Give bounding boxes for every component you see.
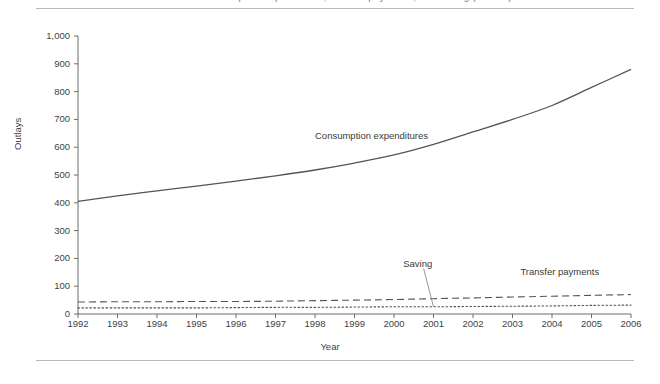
- y-tick-label: 300: [26, 226, 70, 236]
- x-tick-label: 2004: [532, 318, 572, 329]
- x-tick-label: 2000: [374, 318, 414, 329]
- x-tick-label: 1994: [137, 318, 177, 329]
- x-tick-label: 1996: [216, 318, 256, 329]
- series-line-1: [78, 295, 631, 303]
- x-tick-label: 1992: [58, 318, 98, 329]
- chart-figure: Consumption expenditures, transfer payme…: [0, 0, 660, 384]
- y-tick-label: 600: [26, 142, 70, 152]
- x-tick-label: 1995: [177, 318, 217, 329]
- x-tick-label: 1997: [256, 318, 296, 329]
- y-tick-label: 400: [26, 198, 70, 208]
- series-line-2: [78, 305, 631, 308]
- saving-leader-line: [424, 269, 434, 307]
- y-axis-label: Outlays: [12, 118, 23, 150]
- y-tick-label: 1,000: [26, 31, 70, 41]
- x-tick-label: 2001: [414, 318, 454, 329]
- y-tick-label: 200: [26, 253, 70, 263]
- y-tick-label: 800: [26, 87, 70, 97]
- x-tick-label: 1993: [98, 318, 138, 329]
- x-tick-label: 1998: [295, 318, 335, 329]
- y-tick-label: 900: [26, 59, 70, 69]
- x-tick-label: 2003: [493, 318, 533, 329]
- y-tick-label: 100: [26, 281, 70, 291]
- series-label-consumption-expenditures: Consumption expenditures: [315, 130, 428, 141]
- y-tick-label: 700: [26, 114, 70, 124]
- y-tick-label: 500: [26, 170, 70, 180]
- x-tick-label: 1999: [335, 318, 375, 329]
- x-axis-label: Year: [0, 341, 660, 352]
- bottom-divider-rule: [36, 360, 634, 361]
- x-tick-label: 2006: [611, 318, 651, 329]
- x-tick-label: 2005: [572, 318, 612, 329]
- series-label-transfer-payments: Transfer payments: [520, 266, 599, 277]
- series-label-saving: Saving: [403, 258, 432, 269]
- x-tick-label: 2002: [453, 318, 493, 329]
